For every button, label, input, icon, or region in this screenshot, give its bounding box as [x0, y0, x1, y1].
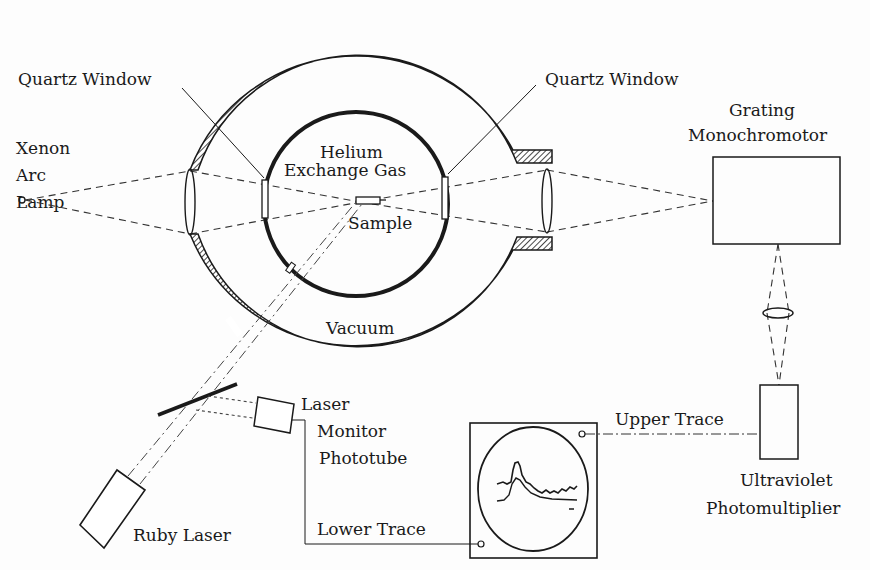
quartz-window-right: [442, 177, 448, 219]
upper-trace-terminal: [579, 431, 585, 437]
sample-label: Sample: [348, 213, 412, 233]
ruby-laser-label: Ruby Laser: [133, 525, 232, 545]
quartz-window-left-label: Quartz Window: [18, 69, 152, 89]
lower-trace-label: Lower Trace: [317, 519, 426, 539]
exit-lens: [542, 169, 552, 233]
laser-monitor-label-3: Phototube: [319, 448, 407, 468]
sample: [356, 197, 386, 204]
entrance-lens: [185, 169, 195, 235]
photomultiplier-label-2: Photomultiplier: [706, 498, 841, 518]
lower-trace-terminal: [478, 541, 484, 547]
xenon-label-2: Arc: [15, 165, 46, 185]
monochromator-label-1: Grating: [729, 100, 795, 120]
laser-monitor-label-1: Laser: [301, 394, 350, 414]
oscilloscope: [470, 423, 597, 558]
apparatus-diagram: Xenon Arc Lamp Quartz Window Quartz Wind…: [0, 0, 870, 570]
helium-label-2: Exchange Gas: [284, 160, 406, 180]
relay-path: [767, 244, 789, 385]
monochromator-label-2: Monochromotor: [688, 125, 828, 145]
laser-monitor-label-2: Monitor: [317, 421, 387, 441]
photomultiplier-label-1: Ultraviolet: [740, 470, 833, 490]
quartz-window-right-label: Quartz Window: [545, 69, 679, 89]
quartz-window-left: [262, 180, 268, 218]
scope-screen: [478, 427, 588, 551]
helium-label-1: Helium: [320, 142, 383, 162]
xenon-label-3: Lamp: [16, 192, 65, 212]
vacuum-label: Vacuum: [325, 318, 394, 338]
grating-monochromator: [713, 157, 840, 244]
upper-trace-signal: [497, 462, 577, 493]
uv-photomultiplier: [760, 385, 798, 459]
laser-monitor-phototube: [254, 397, 294, 433]
upper-trace-label: Upper Trace: [615, 409, 724, 429]
xenon-label-1: Xenon: [16, 138, 70, 158]
